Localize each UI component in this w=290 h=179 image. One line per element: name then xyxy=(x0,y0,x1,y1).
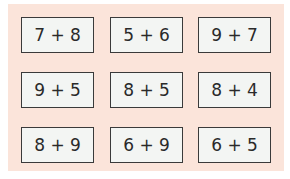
math-card: 9 + 5 xyxy=(21,72,94,108)
math-card: 8 + 5 xyxy=(110,72,183,108)
math-card: 8 + 9 xyxy=(21,127,94,163)
math-card: 6 + 5 xyxy=(198,127,271,163)
math-card: 8 + 4 xyxy=(198,72,271,108)
math-card: 6 + 9 xyxy=(110,127,183,163)
math-card: 9 + 7 xyxy=(198,17,271,53)
math-card: 5 + 6 xyxy=(110,17,183,53)
math-card: 7 + 8 xyxy=(21,17,94,53)
